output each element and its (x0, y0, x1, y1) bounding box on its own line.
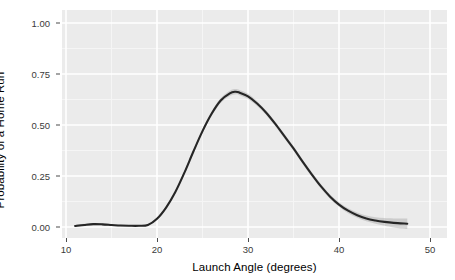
chart-container: Probability of a Home Run 1.00 0.75 0.50… (0, 0, 455, 280)
x-tick-label: 20 (137, 244, 177, 255)
grid-major (62, 10, 447, 238)
confidence-band (75, 89, 407, 229)
plot-panel (62, 10, 447, 238)
y-tick-label: 0.50 (16, 120, 50, 131)
x-tick-label: 10 (46, 244, 86, 255)
x-tick-label: 50 (410, 244, 450, 255)
y-tick-mark (56, 74, 60, 75)
x-tick-label: 30 (228, 244, 268, 255)
plot-area (62, 10, 447, 238)
smooth-line (75, 92, 407, 226)
x-axis-tick-labels: 10 20 30 40 50 (0, 240, 455, 260)
y-tick-mark (56, 23, 60, 24)
x-axis-title: Launch Angle (degrees) (62, 258, 447, 276)
grid-minor (62, 10, 447, 238)
y-tick-label: 0.00 (16, 222, 50, 233)
y-tick-label: 1.00 (16, 18, 50, 29)
y-tick-label: 0.25 (16, 171, 50, 182)
y-tick-mark (56, 227, 60, 228)
y-tick-label: 0.75 (16, 69, 50, 80)
y-tick-mark (56, 125, 60, 126)
y-tick-mark (56, 176, 60, 177)
y-axis-tick-labels: 1.00 0.75 0.50 0.25 0.00 (16, 0, 50, 280)
x-tick-label: 40 (319, 244, 359, 255)
